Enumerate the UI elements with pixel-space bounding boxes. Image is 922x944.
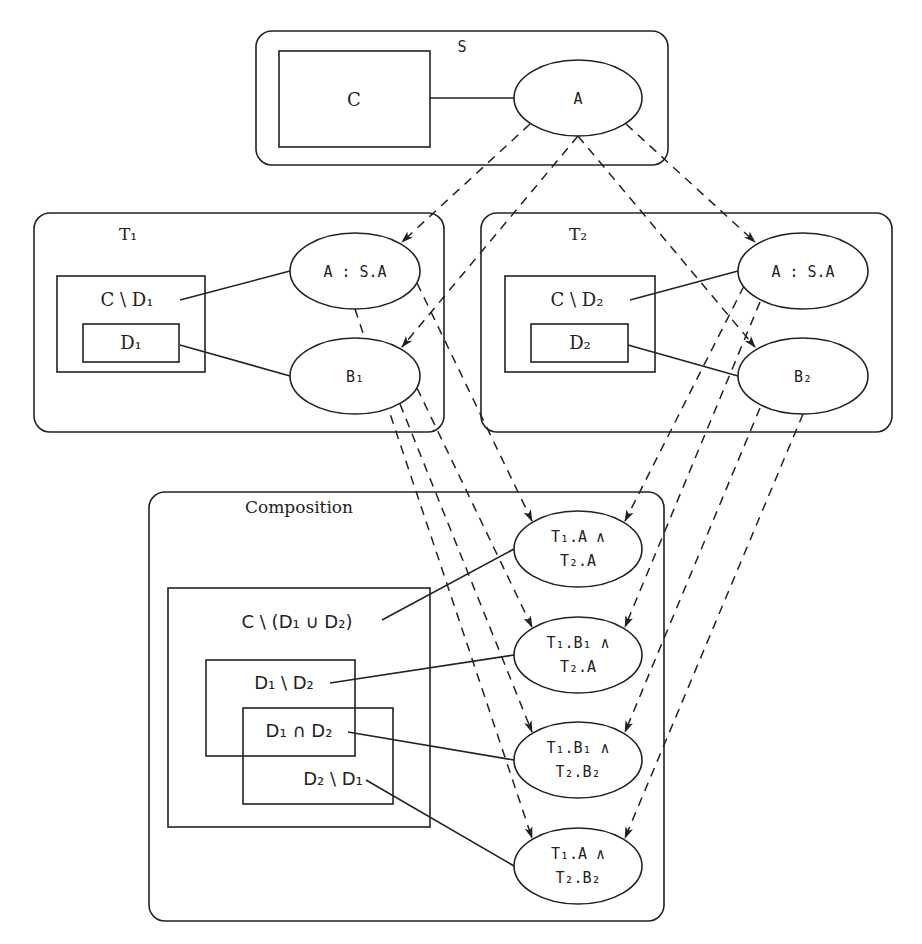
arrow-t1b1-to-n3 (400, 404, 532, 732)
node-comp-3-line2: T₂.B₂ (555, 763, 600, 781)
set-c-minus-d2-label: C \ D₂ (551, 289, 604, 310)
node-t1-a-label: A : S.A (323, 263, 386, 281)
edge-union-to-n1 (382, 549, 514, 620)
arrow-sa-to-t1a (402, 124, 530, 242)
arrow-t2a-to-n1 (625, 286, 744, 521)
node-t2-b2-label: B₂ (794, 368, 812, 386)
set-c-minus-d1-label: C \ D₁ (101, 289, 154, 310)
set-d1-label: D₁ (120, 332, 142, 353)
node-comp-2-line1: T₁.B₁ ∧ (546, 634, 609, 652)
node-comp-t1a-t2a[interactable] (514, 511, 642, 587)
node-s-a-label: A (573, 90, 582, 108)
set-d1-cap-d2-label: D₁ ∩ D₂ (266, 720, 333, 741)
node-comp-t1b1-t2b2[interactable] (514, 722, 642, 798)
schema-s-group: S C A (256, 31, 668, 165)
edge-d1-cap-d2-to-n3 (348, 732, 514, 760)
node-comp-3-line1: T₁.B₁ ∧ (546, 739, 609, 757)
node-comp-t1a-t2b2[interactable] (514, 828, 642, 904)
set-d1-minus-d2-label: D₁ \ D₂ (254, 672, 314, 693)
arrow-t2b2-to-n4 (625, 414, 803, 838)
node-comp-1-line1: T₁.A ∧ (551, 528, 605, 546)
node-t1-b1-label: B₁ (346, 368, 364, 386)
schema-s-title: S (457, 38, 466, 56)
arrow-sa-to-t2a (626, 124, 755, 242)
arrow-t2b2-to-n3 (625, 408, 760, 732)
node-comp-4-line2: T₂.B₂ (555, 869, 600, 887)
composition-diagram: S C A T₁ C \ D₁ D₁ T₂ C \ D₂ D₂ Composit… (0, 0, 922, 944)
edge-d1-minus-d2-to-n2 (330, 655, 514, 683)
set-c-minus-union-label: C \ (D₁ ∪ D₂) (242, 611, 353, 632)
node-comp-t1b1-t2a[interactable] (514, 617, 642, 693)
composition-title: Composition (245, 497, 353, 517)
node-comp-1-line2: T₂.A (560, 552, 596, 570)
set-d2-label: D₂ (569, 332, 591, 353)
set-c-label: C (347, 89, 361, 110)
theory-t1-title: T₁ (119, 224, 137, 244)
node-t2-a-label: A : S.A (771, 263, 834, 281)
arrow-t2a-to-n2 (625, 302, 760, 627)
set-d2-minus-d1-label: D₂ \ D₁ (303, 768, 363, 789)
theory-t2-title: T₂ (569, 224, 587, 244)
node-comp-2-line2: T₂.A (560, 658, 596, 676)
edge-d2-minus-d1-to-n4 (366, 780, 514, 866)
node-comp-4-line1: T₁.A ∧ (551, 845, 605, 863)
arrow-t1a-to-n1 (417, 283, 532, 521)
arrow-sa-to-t1b1 (402, 136, 578, 347)
